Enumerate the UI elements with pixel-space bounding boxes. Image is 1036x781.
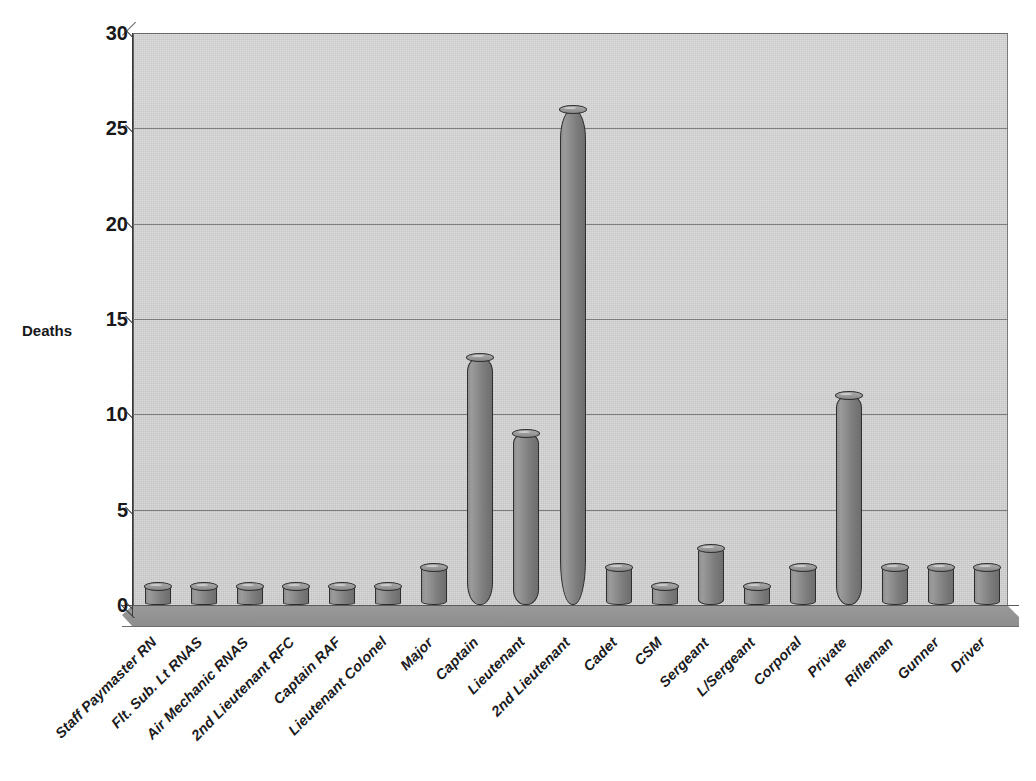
x-axis-tick-label: Rifleman — [841, 634, 896, 689]
x-axis-tick-label: Cadet — [580, 634, 620, 674]
x-axis-tick-label: Major — [397, 634, 436, 673]
x-axis-tick-label: Private — [804, 634, 850, 680]
x-axis-tick-label: CSM — [631, 634, 665, 668]
x-axis-tick-labels: Staff Paymaster RNFlt. Sub. Lt RNASAir M… — [0, 0, 1036, 781]
x-axis-tick-label: Driver — [947, 634, 988, 675]
chart-figure: 051015202530 Deaths Staff Paymaster RNFl… — [0, 0, 1036, 781]
x-axis-tick-label: Gunner — [894, 634, 942, 682]
x-axis-tick-label: Corporal — [750, 634, 805, 689]
